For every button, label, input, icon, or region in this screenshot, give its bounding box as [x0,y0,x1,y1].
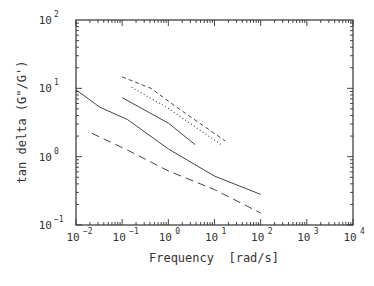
x-tick-label: 10 [66,231,79,244]
series-solid-long [76,90,261,194]
x-tick-exponent: 4 [360,227,365,236]
x-tick-label: 10 [297,231,310,244]
y-tick-labels: 10−1100101102 [39,10,64,232]
x-tick-label: 10 [343,231,356,244]
y-tick-label: 10 [39,14,52,27]
x-axis-label: Frequency [rad/s] [149,251,279,265]
y-tick-label: 10 [39,219,52,232]
x-tick-label: 10 [159,231,172,244]
plot-frame [76,20,353,225]
y-tick-exponent: −1 [54,215,64,224]
x-tick-exponent: 3 [314,227,319,236]
series-solid-short [122,98,195,145]
x-tick-exponent: 1 [222,227,227,236]
y-tick-exponent: 1 [54,78,59,87]
y-tick-exponent: 0 [54,147,59,156]
y-tick-label: 10 [39,82,52,95]
y-tick-exponent: 2 [54,10,59,19]
y-tick-label: 10 [39,151,52,164]
x-tick-label: 10 [251,231,264,244]
x-tick-exponent: −2 [83,227,93,236]
series-dotted [132,87,223,145]
x-tick-label: 10 [205,231,218,244]
x-tick-exponent: 0 [175,227,180,236]
data-series [76,77,261,213]
x-tick-exponent: 2 [268,227,273,236]
x-tick-labels: 10−210−1100101102103104 [66,227,365,244]
series-short-dash [122,77,225,141]
series-long-dash [92,133,261,213]
chart: 10−210−1100101102103104 10−1100101102 Fr… [0,0,374,286]
y-axis-label: tan delta (G"/G') [15,61,29,184]
x-tick-exponent: −1 [129,227,139,236]
axis-ticks [76,20,353,225]
x-tick-label: 10 [113,231,126,244]
